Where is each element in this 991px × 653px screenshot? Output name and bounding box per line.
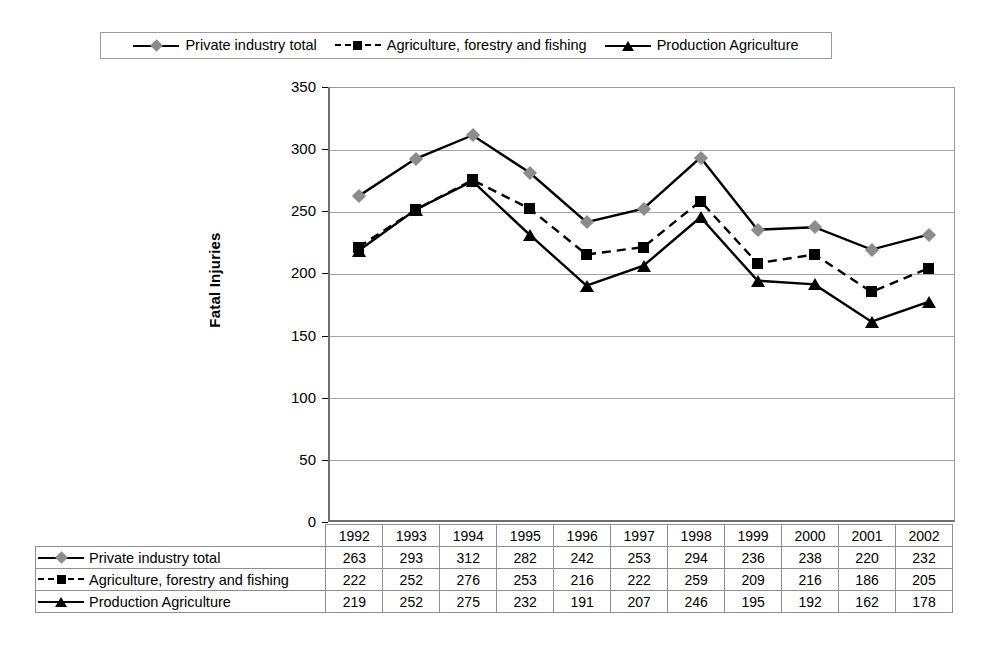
data-point-square-icon [752,258,763,269]
chart-legend: Private industry total Agriculture, fore… [100,32,832,59]
legend-swatch-square-icon [335,40,381,52]
y-tick-label: 150 [256,328,316,343]
series-line-0 [359,135,929,249]
data-point-square-icon [581,249,592,260]
table-cell: 232 [497,591,554,613]
table-year-header: 1993 [383,525,440,547]
table-year-header: 1992 [326,525,383,547]
table-cell: 186 [839,569,896,591]
data-point-square-icon [638,242,649,253]
table-cell: 253 [497,569,554,591]
table-swatch-diamond-icon [38,552,84,564]
table-cell: 294 [668,547,725,569]
legend-item-production-agriculture: Production Agriculture [596,38,808,53]
table-cell: 162 [839,591,896,613]
legend-swatch-diamond-icon [133,40,179,52]
table-year-header: 1995 [497,525,554,547]
table-corner-cell [36,525,326,547]
table-cell: 259 [668,569,725,591]
table-year-header: 1999 [725,525,782,547]
table-cell: 222 [611,569,668,591]
table-cell: 252 [383,569,440,591]
plot-area [328,87,955,522]
table-cell: 246 [668,591,725,613]
y-tick-mark [322,522,328,523]
table-row-label: Production Agriculture [36,591,326,613]
table-cell: 216 [782,569,839,591]
data-point-triangle-icon [808,278,822,290]
table-cell: 192 [782,591,839,613]
table-year-header: 2001 [839,525,896,547]
y-tick-label: 350 [256,79,316,94]
data-point-square-icon [695,196,706,207]
table-row-label: Private industry total [36,547,326,569]
plot-inner [330,88,954,520]
table-year-header: 1997 [611,525,668,547]
table-cell: 222 [326,569,383,591]
table-row-label: Agriculture, forestry and fishing [36,569,326,591]
table-cell: 216 [554,569,611,591]
data-point-triangle-icon [922,296,936,308]
table-cell: 219 [326,591,383,613]
table-row-label-text: Agriculture, forestry and fishing [89,572,289,588]
table-year-header: 2002 [896,525,953,547]
y-tick-label: 250 [256,203,316,218]
legend-item-private-industry-total: Private industry total [124,38,325,53]
table-cell: 178 [896,591,953,613]
table-row: Agriculture, forestry and fishing2222522… [36,569,953,591]
table-cell: 263 [326,547,383,569]
table-cell: 293 [383,547,440,569]
table-year-header: 1996 [554,525,611,547]
table-cell: 232 [896,547,953,569]
legend-label: Private industry total [185,38,316,53]
table-cell: 191 [554,591,611,613]
table-cell: 207 [611,591,668,613]
table-cell: 236 [725,547,782,569]
table-cell: 238 [782,547,839,569]
table-year-header: 2000 [782,525,839,547]
table-cell: 312 [440,547,497,569]
table-header-row: 1992199319941995199619971998199920002001… [36,525,953,547]
data-table: 1992199319941995199619971998199920002001… [35,524,953,613]
data-point-triangle-icon [352,245,366,257]
table-cell: 282 [497,547,554,569]
y-tick-label: 200 [256,265,316,280]
table-swatch-triangle-icon [38,596,84,608]
data-point-triangle-icon [523,229,537,241]
y-tick-label: 100 [256,390,316,405]
data-point-triangle-icon [751,275,765,287]
table-row: Private industry total263293312282242253… [36,547,953,569]
legend-item-agriculture-forestry-fishing: Agriculture, forestry and fishing [326,38,596,53]
table-cell: 275 [440,591,497,613]
data-point-triangle-icon [580,280,594,292]
y-tick-label: 300 [256,141,316,156]
table-cell: 209 [725,569,782,591]
data-point-triangle-icon [466,175,480,187]
table-row: Production Agriculture219252275232191207… [36,591,953,613]
data-point-triangle-icon [637,260,651,272]
data-point-square-icon [923,263,934,274]
series-lines [330,88,957,523]
y-tick-label: 50 [256,452,316,467]
table-swatch-square-icon [38,574,84,586]
table-cell: 252 [383,591,440,613]
table-cell: 205 [896,569,953,591]
table-year-header: 1994 [440,525,497,547]
table-row-label-text: Private industry total [89,550,220,566]
data-point-triangle-icon [694,211,708,223]
table-cell: 195 [725,591,782,613]
table-row-label-text: Production Agriculture [89,594,231,610]
table-year-header: 1998 [668,525,725,547]
data-point-square-icon [866,286,877,297]
data-point-triangle-icon [865,316,879,328]
legend-label: Production Agriculture [657,38,799,53]
chart-figure: Private industry total Agriculture, fore… [0,0,991,653]
data-point-square-icon [524,203,535,214]
table-cell: 220 [839,547,896,569]
data-point-square-icon [809,249,820,260]
table-cell: 276 [440,569,497,591]
table-cell: 253 [611,547,668,569]
data-point-triangle-icon [409,204,423,216]
legend-swatch-triangle-icon [605,40,651,52]
table-cell: 242 [554,547,611,569]
